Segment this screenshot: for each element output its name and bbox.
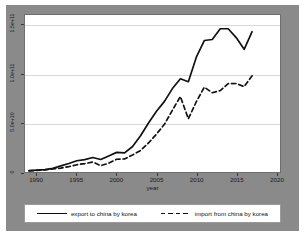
x-tick-label: 2015 (222, 176, 252, 183)
legend-swatch-dashed-icon (161, 211, 191, 217)
x-axis-title: year (0, 184, 305, 191)
x-tick-label: 2020 (262, 176, 292, 183)
y-tick-label: 1.0e+11 (9, 61, 15, 85)
y-tick-mark (21, 173, 24, 174)
legend-entry-export: export to china by korea (37, 210, 137, 217)
x-tick-label: 1990 (21, 176, 51, 183)
y-tick-label: 0 (9, 160, 15, 184)
legend-entry-import: import from china by korea (161, 210, 268, 217)
legend-swatch-solid-icon (37, 211, 67, 217)
x-tick-mark (157, 173, 158, 176)
legend-label-export: export to china by korea (71, 210, 137, 217)
legend-label-import: import from china by korea (195, 210, 268, 217)
x-tick-mark (277, 173, 278, 176)
chart-lines (25, 15, 280, 172)
series-line (29, 76, 252, 171)
y-tick-label: 1.5e+11 (9, 11, 15, 35)
y-tick-label: 5.0e+10 (9, 110, 15, 134)
chart-legend: export to china by korea import from chi… (24, 204, 281, 223)
x-tick-label: 2005 (142, 176, 172, 183)
x-tick-mark (116, 173, 117, 176)
x-tick-label: 1995 (61, 176, 91, 183)
y-axis: 05.0e+101.0e+111.5e+11 (0, 0, 24, 190)
plot-inner (25, 15, 280, 172)
x-tick-mark (237, 173, 238, 176)
x-tick-label: 2010 (182, 176, 212, 183)
x-tick-label: 2000 (101, 176, 131, 183)
x-tick-mark (197, 173, 198, 176)
x-tick-mark (76, 173, 77, 176)
chart-screenshot: 05.0e+101.0e+111.5e+11 19901995200020052… (0, 0, 305, 236)
plot-area (24, 14, 281, 173)
series-line (29, 29, 252, 171)
x-tick-mark (36, 173, 37, 176)
